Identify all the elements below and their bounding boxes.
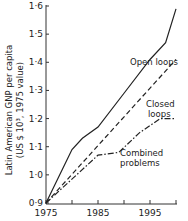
label-combined-1: Combined bbox=[120, 148, 163, 158]
gnp-chart: 0·91·01·11·21·31·41·51·6 197519851995 Op… bbox=[0, 0, 188, 221]
y-axis-title: Latin American GNP per capita (US $ 10³,… bbox=[4, 45, 25, 176]
x-tick-label: 1975 bbox=[35, 208, 58, 218]
x-tick-label: 1995 bbox=[139, 208, 162, 218]
label-combined-2: problems bbox=[120, 158, 160, 168]
y-tick-label: 1·6 bbox=[29, 1, 44, 11]
y-tick-label: 1·1 bbox=[29, 142, 43, 152]
series-closed-loops bbox=[46, 59, 176, 203]
y-tick-label: 1·3 bbox=[29, 85, 43, 95]
x-ticks: 197519851995 bbox=[35, 200, 176, 218]
y-tick-label: 1·5 bbox=[29, 29, 43, 39]
y-tick-label: 1·4 bbox=[29, 57, 44, 67]
y-tick-label: 1·2 bbox=[29, 114, 43, 124]
svg-text:Latin American GNP per capita: Latin American GNP per capita bbox=[4, 45, 14, 176]
y-tick-label: 0·9 bbox=[29, 198, 44, 208]
label-closed-loops-1: Closed bbox=[146, 99, 175, 109]
x-tick-label: 1985 bbox=[87, 208, 110, 218]
y-tick-label: 1·0 bbox=[29, 170, 44, 180]
svg-text:(US $ 10³, 1975 value): (US $ 10³, 1975 value) bbox=[15, 62, 25, 158]
label-closed-loops-2: loops bbox=[148, 109, 171, 119]
label-open-loops: Open loops bbox=[130, 57, 179, 67]
